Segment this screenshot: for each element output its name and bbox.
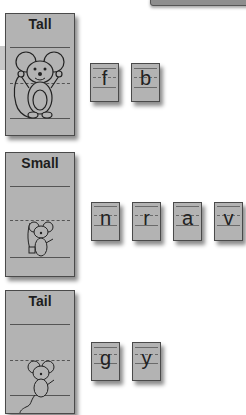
small-mouse-icon — [24, 219, 58, 259]
letter-card-b[interactable]: b — [131, 63, 160, 102]
letter-card-r[interactable]: r — [132, 202, 161, 241]
letter-glyph: b — [132, 68, 159, 88]
letter-card-f[interactable]: f — [90, 63, 119, 102]
letter-glyph: a — [174, 208, 201, 228]
letter-card-v[interactable]: v — [214, 202, 243, 241]
letter-card-a[interactable]: a — [173, 202, 202, 241]
top-line — [10, 186, 70, 187]
letter-glyph: v — [215, 208, 242, 228]
tail-mouse-icon — [18, 359, 62, 413]
category-card-tail: Tail — [5, 290, 75, 414]
letter-glyph: y — [133, 348, 160, 368]
card-title: Small — [6, 155, 74, 171]
letter-glyph: f — [91, 68, 118, 88]
letter-card-y[interactable]: y — [132, 342, 161, 381]
letter-glyph: n — [92, 208, 119, 228]
top-line — [10, 324, 70, 325]
card-title: Tall — [6, 16, 74, 32]
category-card-small: Small — [5, 152, 75, 277]
letter-card-g[interactable]: g — [91, 342, 120, 381]
tall-mouse-icon — [10, 48, 70, 120]
top-bar-edge — [150, 0, 246, 6]
letter-glyph: g — [92, 348, 119, 368]
category-card-tall: Tall — [5, 13, 75, 136]
card-title: Tail — [6, 293, 74, 309]
letter-glyph: r — [133, 208, 160, 228]
letter-card-n[interactable]: n — [91, 202, 120, 241]
